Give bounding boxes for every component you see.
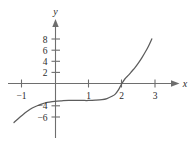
- cubic-function-graph: −1 1 2 3 8 6 4 2 −4 −6 y x: [0, 0, 191, 145]
- y-tick-label-neg4: −4: [37, 101, 47, 111]
- x-tick-label-3: 3: [153, 91, 158, 101]
- y-tick-label-neg6: −6: [37, 113, 47, 123]
- y-tick-label-6: 6: [43, 46, 48, 56]
- x-tick-label-neg1: −1: [16, 91, 26, 101]
- label-layer: −1 1 2 3 8 6 4 2 −4 −6 y x: [0, 0, 191, 145]
- y-tick-label-8: 8: [43, 35, 48, 45]
- x-axis-label: x: [182, 78, 188, 89]
- x-tick-label-2: 2: [119, 91, 124, 101]
- y-axis-label: y: [52, 6, 58, 17]
- y-tick-label-4: 4: [43, 57, 48, 67]
- x-tick-label-1: 1: [86, 91, 91, 101]
- y-tick-label-2: 2: [43, 68, 48, 78]
